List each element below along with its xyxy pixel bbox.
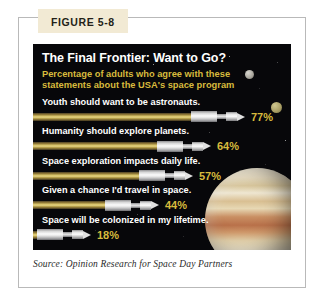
rocket-bar	[33, 170, 193, 181]
rocket-neck-segment	[183, 144, 192, 149]
stat-row: Youth should want to be astronauts.77%	[42, 97, 281, 124]
rocket-booster-segment	[191, 111, 217, 122]
rocket-capsule-segment	[174, 171, 185, 180]
rocket-bar-line: 64%	[33, 140, 281, 153]
rocket-booster-segment	[37, 229, 63, 240]
stat-percentage-value: 18%	[97, 229, 119, 241]
stat-statement-label: Space exploration impacts daily life.	[42, 156, 281, 168]
stat-row: Space will be colonized in my lifetime.1…	[42, 215, 281, 242]
stat-percentage-value: 64%	[217, 140, 239, 152]
rocket-nose-segment	[185, 172, 193, 180]
rocket-capsule-segment	[140, 201, 151, 210]
infographic-headline: The Final Frontier: Want to Go?	[42, 52, 281, 66]
rocket-bar-line: 57%	[33, 169, 281, 182]
stat-statement-label: Given a chance I'd travel in space.	[42, 185, 281, 197]
rocket-tube-segment	[33, 172, 139, 180]
infographic-subhead: Percentage of adults who agree with thes…	[42, 69, 247, 92]
rocket-nose-segment	[83, 231, 91, 239]
rocket-tube-segment	[33, 142, 157, 150]
rocket-nose-segment	[237, 113, 245, 121]
stat-row: Given a chance I'd travel in space.44%	[42, 185, 281, 212]
rocket-bar	[33, 200, 159, 211]
rocket-capsule-segment	[192, 142, 203, 151]
stat-percentage-value: 44%	[165, 199, 187, 211]
stat-statement-label: Youth should want to be astronauts.	[42, 97, 281, 109]
space-infographic-panel: The Final Frontier: Want to Go? Percenta…	[33, 44, 291, 250]
rocket-tube-segment	[33, 113, 191, 121]
rocket-bar-line: 44%	[33, 199, 281, 212]
rocket-nose-segment	[151, 201, 159, 209]
stat-percentage-value: 57%	[199, 170, 221, 182]
rocket-neck-segment	[165, 173, 174, 178]
rocket-bar	[33, 111, 245, 122]
panel-content: The Final Frontier: Want to Go? Percenta…	[33, 44, 291, 241]
figure-number-tab: FIGURE 5-8	[38, 9, 128, 33]
stat-percentage-value: 77%	[251, 111, 273, 123]
rocket-booster-segment	[139, 170, 165, 181]
rocket-tube-segment	[33, 201, 105, 209]
stat-rows: Youth should want to be astronauts.77%Hu…	[42, 97, 281, 242]
figure-number-label: FIGURE 5-8	[51, 16, 115, 28]
stat-statement-label: Space will be colonized in my lifetime.	[42, 215, 281, 227]
stat-statement-label: Humanity should explore planets.	[42, 126, 281, 138]
rocket-bar	[33, 229, 91, 240]
rocket-capsule-segment	[226, 112, 237, 121]
rocket-neck-segment	[217, 114, 226, 119]
rocket-booster-segment	[157, 141, 183, 152]
stat-row: Humanity should explore planets.64%	[42, 126, 281, 153]
rocket-nose-segment	[203, 142, 211, 150]
rocket-bar	[33, 141, 211, 152]
rocket-neck-segment	[131, 203, 140, 208]
rocket-neck-segment	[63, 232, 72, 237]
source-note: Source: Opinion Research for Space Day P…	[33, 259, 232, 269]
rocket-booster-segment	[105, 200, 131, 211]
rocket-bar-line: 18%	[33, 228, 281, 241]
stat-row: Space exploration impacts daily life.57%	[42, 156, 281, 183]
rocket-bar-line: 77%	[33, 110, 281, 123]
rocket-capsule-segment	[72, 230, 83, 239]
